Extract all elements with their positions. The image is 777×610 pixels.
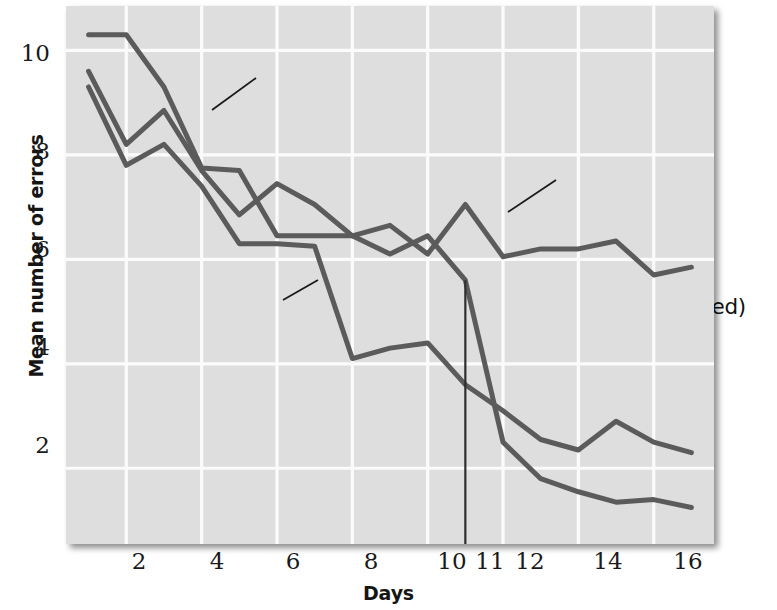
x-tick-8: 8 (349, 548, 393, 574)
annotation-group-b-line1: Group B (557, 216, 746, 242)
annotation-group-b-line2: (never reinforced) (557, 294, 746, 320)
annotation-group-c-line1: Group C (255, 114, 369, 140)
x-tick-16: 16 (666, 548, 710, 574)
y-tick-4: 4 (0, 334, 50, 360)
annotation-group-c-line2: (reinforced (255, 192, 369, 218)
annotation-group-b: Group B (never reinforced) (557, 164, 746, 372)
annotation-group-a-line2: (reinforced (182, 414, 321, 440)
x-tick-11: 11 (468, 548, 512, 574)
x-tick-2: 2 (117, 548, 161, 574)
annotation-group-a-line1: Group A (182, 336, 321, 362)
y-tick-2: 2 (0, 432, 50, 458)
chart-figure: Mean number of errors Days 10 8 6 4 2 2 … (0, 0, 777, 610)
x-axis-title: Days (0, 582, 777, 604)
annotation-group-a-line3: on each trial) (182, 492, 321, 518)
x-tick-12: 12 (508, 548, 552, 574)
x-tick-14: 14 (586, 548, 630, 574)
annotation-group-a: Group A (reinforced on each trial) (182, 284, 321, 570)
y-tick-10: 10 (0, 40, 50, 66)
y-tick-8: 8 (0, 138, 50, 164)
y-tick-6: 6 (0, 236, 50, 262)
